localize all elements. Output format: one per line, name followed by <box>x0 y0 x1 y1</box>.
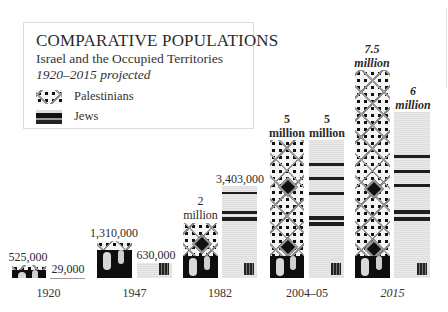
value-label-palestinians-1982: 2 million <box>183 194 218 222</box>
value-label-palestinians-2004-05: 5 million <box>268 112 306 140</box>
bar-jews-2015 <box>394 112 430 278</box>
chart-title: COMPARATIVE POPULATIONS <box>36 31 278 51</box>
decorative-rule <box>446 8 447 88</box>
value-label-jews-2015: 6 million <box>392 84 434 112</box>
value-label-palestinians-1947: 1,310,000 <box>88 226 140 240</box>
value-label-palestinians-2015: 7.5 million <box>352 42 392 70</box>
value-label-jews-2004-05: 5 million <box>307 112 347 140</box>
year-label-1920: 1920 <box>12 286 85 301</box>
legend-label: Jews <box>74 109 98 124</box>
tallit-swatch-icon <box>36 110 62 124</box>
bar-jews-1920 <box>50 278 85 279</box>
chart-date-range: 1920–2015 projected <box>36 67 151 83</box>
bar-palestinians-1920 <box>12 265 46 278</box>
year-label-1982: 1982 <box>183 286 257 301</box>
legend: COMPARATIVE POPULATIONS Israel and the O… <box>23 22 254 129</box>
chart-subtitle: Israel and the Occupied Territories <box>36 51 223 67</box>
year-label-1947: 1947 <box>97 286 172 301</box>
year-label-2015: 2015 <box>355 286 430 301</box>
value-label-palestinians-1920: 525,000 <box>4 250 52 264</box>
value-label-jews-1947: 630,000 <box>134 248 178 262</box>
legend-item-jews: Jews <box>36 109 98 124</box>
year-label-2004-05: 2004–05 <box>270 286 344 301</box>
legend-label: Palestinians <box>74 89 134 104</box>
bar-palestinians-2015 <box>355 70 390 278</box>
bar-palestinians-1947 <box>97 241 132 278</box>
value-label-jews-1982: 3,403,000 <box>216 172 262 186</box>
bar-jews-1947 <box>137 263 172 278</box>
keffiyeh-swatch-icon <box>36 90 62 104</box>
legend-item-palestinians: Palestinians <box>36 89 134 104</box>
bar-jews-1982 <box>222 186 257 278</box>
bar-palestinians-1982 <box>183 223 218 278</box>
bar-palestinians-2004-05 <box>270 140 304 278</box>
bar-jews-2004-05 <box>309 140 344 278</box>
value-label-jews-1920: 29,000 <box>48 262 88 276</box>
